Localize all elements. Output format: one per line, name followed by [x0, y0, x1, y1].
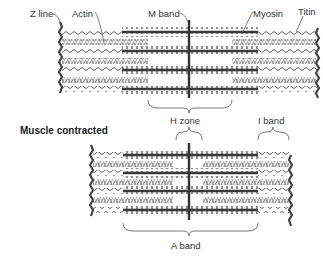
contracted-sarcomere [90, 127, 292, 236]
a-band-label: A band [171, 241, 201, 251]
i-band-label: I band [258, 116, 284, 126]
actin-leader [95, 12, 104, 42]
z-line-leader [53, 14, 60, 22]
i-band-brace-contracted [258, 127, 289, 140]
myosin-label: Myosin [253, 9, 283, 19]
thin-coiled-filaments-right [232, 39, 316, 83]
relaxed-sarcomere [53, 12, 319, 113]
h-zone-brace-contracted [176, 127, 202, 140]
h-zone-brace [148, 100, 232, 113]
left-z-line-contracted [90, 145, 93, 216]
contracted-title: Muscle contracted [20, 126, 108, 136]
titin-label: Titin [298, 7, 316, 17]
a-band-brace [123, 223, 258, 236]
thin-coiled-filaments-contracted [93, 161, 289, 203]
left-z-line [59, 22, 62, 93]
m-band-label: M band [148, 9, 180, 19]
thin-coiled-filaments-left [62, 39, 148, 83]
right-z-line-contracted [289, 155, 292, 226]
z-line-label: Z line [30, 9, 53, 19]
actin-label: Actin [72, 9, 93, 19]
m-band-leader [180, 13, 188, 22]
h-zone-label: H zone [170, 116, 200, 126]
